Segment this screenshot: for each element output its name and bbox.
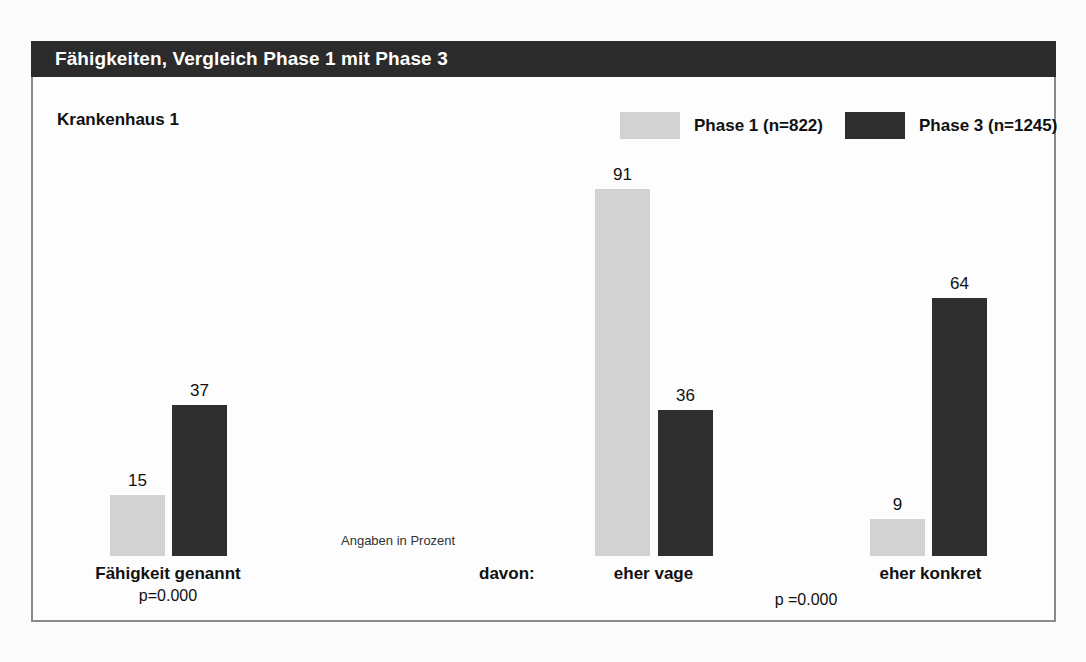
group-label-eher-vage: eher vage: [571, 564, 736, 584]
p-value-group2: p =0.000: [731, 591, 881, 609]
bar-value-group2-phase3: 36: [658, 386, 713, 406]
bar-group2-phase3: [658, 410, 713, 556]
bar-group2-phase1: [595, 189, 650, 556]
bar-value-group3-phase1: 9: [870, 495, 925, 515]
bar-group3-phase3: [932, 298, 987, 556]
group-label-eher-konkret: eher konkret: [848, 564, 1013, 584]
group-label-faehigkeit-genannt: Fähigkeit genannt: [58, 564, 278, 584]
p-value-group1: p=0.000: [58, 587, 278, 605]
units-note: Angaben in Prozent: [341, 533, 455, 548]
label-davon: davon:: [479, 564, 535, 584]
plot-area: 15 37 Fähigkeit genannt p=0.000 91 36 eh…: [31, 77, 1056, 622]
chart-title-bar: Fähigkeiten, Vergleich Phase 1 mit Phase…: [31, 41, 1056, 77]
page-title: Fähigkeiten, Vergleich Phase 1 mit Phase…: [31, 48, 448, 70]
bar-group3-phase1: [870, 519, 925, 556]
bar-value-group1-phase3: 37: [172, 381, 227, 401]
bar-group1-phase1: [110, 495, 165, 556]
bar-value-group1-phase1: 15: [110, 471, 165, 491]
bar-value-group2-phase1: 91: [595, 165, 650, 185]
bar-value-group3-phase3: 64: [932, 274, 987, 294]
bar-group1-phase3: [172, 405, 227, 556]
